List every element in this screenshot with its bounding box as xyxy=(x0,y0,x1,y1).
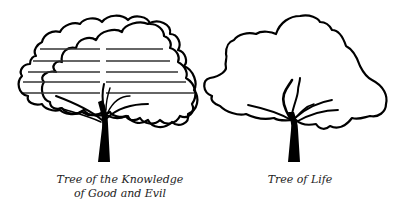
tree-of-knowledge-graphic xyxy=(19,16,198,162)
trees-comparison-figure: Tree of the Knowledge of Good and Evil T… xyxy=(0,0,399,218)
caption-tree-of-life: Tree of Life xyxy=(230,173,370,187)
caption-line: of Good and Evil xyxy=(40,187,200,201)
caption-tree-of-knowledge: Tree of the Knowledge of Good and Evil xyxy=(40,173,200,201)
life-canopy-outline xyxy=(204,15,386,128)
knowledge-canopy-outline xyxy=(42,22,197,127)
caption-line: Tree of the Knowledge xyxy=(40,173,200,187)
caption-line: Tree of Life xyxy=(230,173,370,187)
tree-of-life-graphic xyxy=(204,15,386,162)
